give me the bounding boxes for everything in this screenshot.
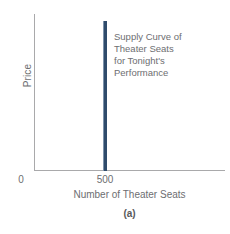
x-tick-label-500: 500 bbox=[85, 174, 125, 185]
y-axis-line bbox=[34, 14, 35, 171]
x-tick-label-0: 0 bbox=[14, 174, 28, 185]
y-axis-title: Price bbox=[22, 46, 33, 106]
annotation-line-3: for Tonight's bbox=[114, 55, 182, 67]
panel-label: (a) bbox=[34, 208, 225, 219]
annotation-line-2: Theater Seats bbox=[114, 43, 182, 55]
annotation-line-4: Performance bbox=[114, 67, 182, 79]
supply-curve-line bbox=[103, 21, 107, 171]
supply-curve-annotation: Supply Curve of Theater Seats for Tonigh… bbox=[114, 31, 182, 79]
x-axis-title: Number of Theater Seats bbox=[34, 189, 225, 200]
annotation-line-1: Supply Curve of bbox=[114, 31, 182, 43]
x-axis-line bbox=[34, 170, 225, 171]
supply-curve-figure: Price 0 500 Number of Theater Seats (a) … bbox=[0, 0, 230, 234]
